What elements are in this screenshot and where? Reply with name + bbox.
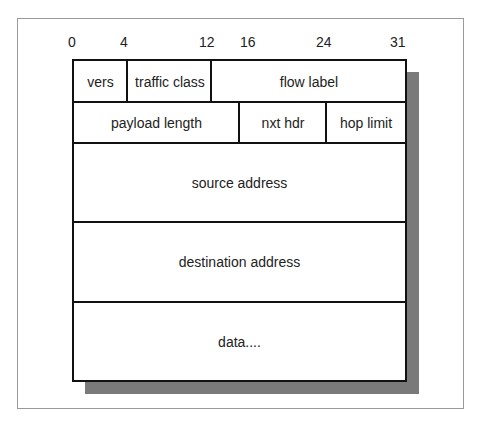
- divider: [238, 102, 240, 143]
- field-source-address: source address: [74, 144, 405, 221]
- field-traffic-class: traffic class: [128, 61, 212, 102]
- bit-label-4: 4: [120, 34, 128, 50]
- divider: [126, 61, 128, 102]
- ipv6-header-table: vers traffic class flow label payload le…: [72, 59, 407, 382]
- divider: [325, 102, 327, 143]
- bit-label-24: 24: [316, 34, 332, 50]
- field-destination-address: destination address: [74, 223, 405, 301]
- field-data: data....: [74, 303, 405, 380]
- field-hop-limit: hop limit: [327, 103, 405, 143]
- divider: [210, 61, 212, 102]
- field-flow-label: flow label: [213, 61, 405, 102]
- bit-label-12: 12: [199, 34, 215, 50]
- bit-label-0: 0: [68, 34, 76, 50]
- bit-label-31: 31: [390, 34, 406, 50]
- field-vers: vers: [74, 61, 127, 102]
- field-next-header: nxt hdr: [240, 103, 326, 143]
- bit-label-16: 16: [240, 34, 256, 50]
- field-payload-length: payload length: [74, 103, 239, 143]
